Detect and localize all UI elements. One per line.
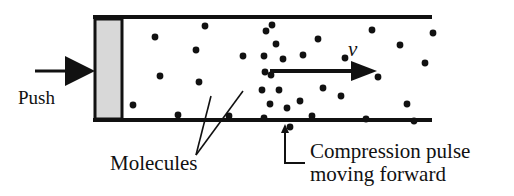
molecule-dots	[130, 22, 437, 131]
compression-pulse-label: Compression pulsemoving forward	[310, 140, 470, 185]
molecule-dot	[152, 34, 159, 41]
molecule-dot	[269, 22, 276, 29]
push-label: Push	[18, 88, 55, 109]
molecule-dot	[284, 105, 291, 112]
molecule-dot	[300, 52, 307, 59]
molecule-dot	[422, 60, 429, 67]
molecule-dot	[287, 124, 294, 131]
molecule-dot	[338, 93, 345, 100]
molecule-dot	[297, 98, 304, 105]
molecule-dot	[404, 101, 411, 108]
push-arrow-head	[65, 56, 95, 86]
compression-pulse-label-line1: Compression pulse	[310, 139, 470, 163]
molecule-dot	[280, 56, 287, 63]
molecule-dot	[375, 74, 382, 81]
molecule-dot	[315, 36, 322, 43]
molecule-dot	[261, 115, 268, 122]
molecule-dot	[411, 118, 418, 125]
molecule-dot	[320, 85, 327, 92]
molecule-dot	[276, 87, 283, 94]
molecule-dot	[369, 27, 376, 34]
molecule-dot	[175, 112, 182, 119]
molecule-dot	[193, 47, 200, 54]
molecules-leader-line	[196, 91, 243, 155]
piston	[95, 19, 122, 119]
compression-pulse-figure: Push v Molecules Compression pulsemoving…	[0, 0, 514, 196]
molecule-dot	[240, 53, 247, 60]
velocity-arrow-head	[351, 61, 377, 81]
molecule-dot	[267, 101, 274, 108]
molecule-dot	[259, 87, 266, 94]
molecules-label: Molecules	[110, 152, 197, 175]
molecule-dot	[363, 116, 370, 123]
velocity-arrow	[270, 61, 377, 81]
velocity-label: v	[348, 38, 357, 61]
molecule-dot	[130, 102, 137, 109]
push-arrow	[35, 56, 95, 86]
molecule-dot	[263, 28, 270, 35]
molecule-dot	[397, 42, 404, 49]
molecules-leader-line	[196, 96, 211, 155]
compression-pulse-label-line2: moving forward	[310, 163, 470, 186]
molecule-dot	[157, 73, 164, 80]
tube-walls	[93, 17, 432, 120]
molecule-dot	[309, 113, 316, 120]
molecule-dot	[430, 30, 437, 37]
molecules-leader-lines	[196, 91, 243, 155]
molecule-dot	[262, 69, 269, 76]
molecule-dot	[273, 41, 280, 48]
molecule-dot	[261, 53, 268, 60]
compression-pointer	[281, 124, 305, 163]
molecule-dot	[196, 79, 203, 86]
molecule-dot	[202, 23, 209, 30]
